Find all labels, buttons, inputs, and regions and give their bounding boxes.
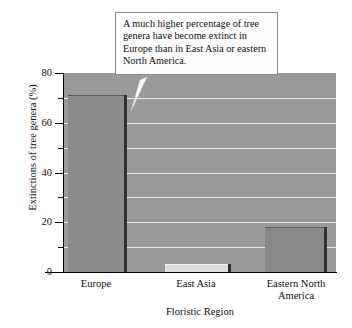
bar-eastern-north-america[interactable]: [265, 227, 327, 272]
category-label-east-asia: East Asia: [156, 278, 236, 290]
category-label-eastern-north-america-line1: Eastern North: [267, 278, 326, 289]
bar-europe[interactable]: [68, 95, 127, 272]
ytick-mark-10: [58, 247, 64, 248]
x-axis-title: Floristic Region: [64, 306, 336, 317]
bar-east-asia-top-edge: [165, 264, 228, 265]
ytick-mark-30: [58, 197, 64, 198]
ytick-mark-40: [55, 173, 64, 174]
bar-europe-top-edge: [68, 95, 124, 96]
ytick-mark-60: [55, 123, 64, 124]
callout-pointer-icon: [121, 77, 147, 111]
bar-chart-figure: 0 20 40 60 80 Extinctions of tree genera…: [0, 0, 352, 328]
callout-annotation: A much higher percentage of tree genera …: [115, 12, 278, 75]
ytick-mark-0: [55, 272, 64, 273]
bar-eastern-north-america-fill: [265, 227, 324, 272]
x-axis-line: [45, 272, 337, 273]
plot-area: [64, 73, 336, 272]
ytick-mark-70: [58, 98, 64, 99]
ytick-mark-20: [55, 222, 64, 223]
bar-europe-shadow-edge: [124, 95, 127, 272]
y-axis-title: Extinctions of tree genera (%): [27, 53, 38, 243]
category-label-eastern-north-america-line2: America: [278, 290, 314, 301]
ytick-mark-80: [55, 73, 64, 74]
bar-east-asia-fill: [165, 264, 228, 273]
ytick-mark-50: [58, 148, 64, 149]
bar-east-asia-shadow-edge: [228, 264, 231, 273]
bar-europe-fill: [68, 95, 124, 272]
bar-east-asia[interactable]: [165, 264, 231, 273]
bar-eastern-north-america-shadow-edge: [324, 227, 327, 272]
category-label-eastern-north-america: Eastern North America: [252, 278, 340, 302]
ytick-label-0: 0: [30, 267, 52, 277]
bar-eastern-north-america-top-edge: [265, 227, 324, 228]
category-label-europe: Europe: [56, 278, 136, 290]
